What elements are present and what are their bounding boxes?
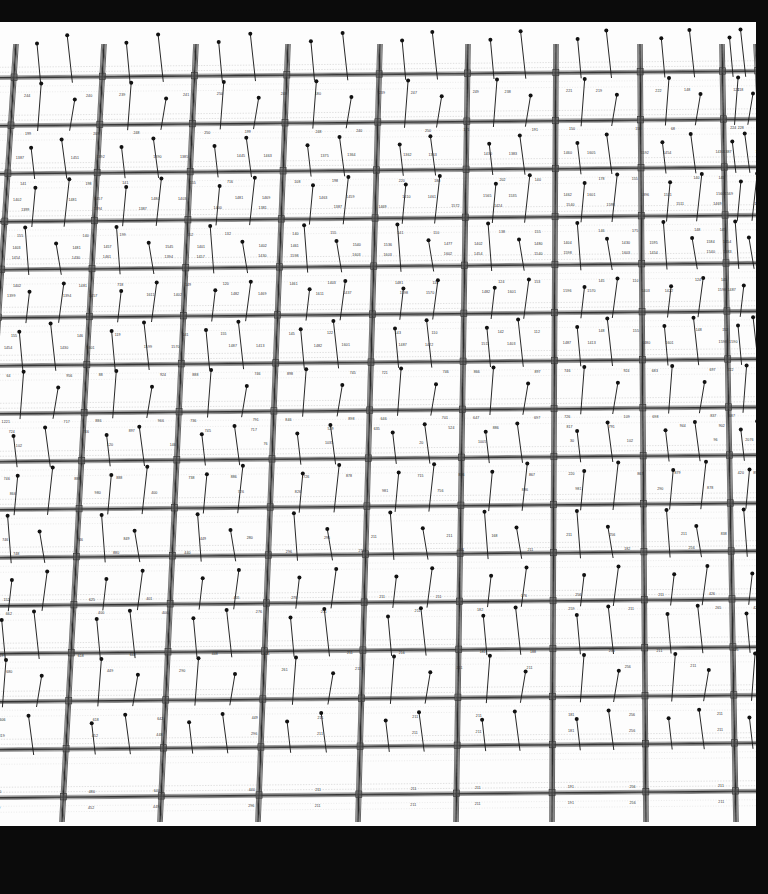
load-marker-head <box>480 718 484 722</box>
reinforcement-value-label: 1570 <box>587 289 595 293</box>
load-marker-head <box>253 176 257 180</box>
reinforcement-value-label: 120 <box>223 282 229 286</box>
column-line <box>456 44 468 822</box>
reinforcement-value-label: 1598 <box>400 291 408 295</box>
column-line <box>457 44 469 822</box>
reinforcement-value-label: 211 <box>412 731 418 735</box>
load-marker-head <box>105 433 109 437</box>
reinforcement-value-label: 718 <box>117 283 123 287</box>
joint-core <box>460 407 464 412</box>
reinforcement-value-label: 211 <box>475 786 481 790</box>
reinforcement-value-label: 211 <box>476 714 482 718</box>
reinforcement-value-label: 1396 <box>641 193 649 197</box>
reinforcement-value-label: 142 <box>498 330 504 334</box>
reinforcement-value-label: 211 <box>315 804 321 808</box>
joint-core <box>639 117 643 122</box>
load-marker-stem <box>486 656 490 703</box>
reinforcement-value-label: 261 <box>281 668 287 672</box>
load-marker-head <box>667 76 671 80</box>
joint-core <box>639 213 643 218</box>
load-marker-head <box>340 383 344 387</box>
reinforcement-value-label: 838 <box>721 532 727 536</box>
reinforcement-value-label: 886 <box>459 473 465 477</box>
reinforcement-value-label: 141 <box>397 231 403 235</box>
reinforcement-value-label: 220 <box>569 472 575 476</box>
load-marker-head <box>141 569 145 573</box>
load-marker-head <box>687 28 691 32</box>
reinforcement-value-label: 898 <box>348 417 354 421</box>
load-marker-stem <box>429 464 434 511</box>
joint-core <box>643 693 647 698</box>
joint-core <box>366 456 370 461</box>
load-marker-stem <box>612 175 617 222</box>
reinforcement-value-label: 452 <box>88 806 94 810</box>
reinforcement-value-label: 724 <box>9 430 15 434</box>
reinforcement-value-label: 198 <box>86 182 92 186</box>
reinforcement-value-label: 697 <box>534 416 540 420</box>
reinforcement-value-label: 182 <box>624 547 630 551</box>
load-marker-head <box>438 174 442 178</box>
joint-core <box>553 214 557 219</box>
reinforcement-value-label: 211 <box>379 595 385 599</box>
reinforcement-value-label: 290 <box>657 487 663 491</box>
load-marker-head <box>233 672 237 676</box>
reinforcement-value-label: 888 <box>192 373 198 377</box>
reinforcement-value-label: 1454 <box>12 256 20 260</box>
joint-core <box>365 504 369 509</box>
reference-dashed-line <box>0 805 756 813</box>
reinforcement-value-label: 248 <box>315 130 321 134</box>
reinforcement-value-label: 1560 <box>716 192 724 196</box>
load-marker-head <box>0 618 4 622</box>
load-marker-head <box>248 32 252 36</box>
load-marker-head <box>423 422 427 426</box>
load-marker-head <box>249 280 253 284</box>
reinforcement-value-label: 1584 <box>707 240 715 244</box>
reinforcement-value-label: 1375 <box>320 154 328 158</box>
reinforcement-value-label: 112 <box>534 330 540 334</box>
load-marker-head <box>743 131 747 135</box>
load-marker-head <box>120 145 124 149</box>
reinforcement-value-label: 150 <box>0 790 1 794</box>
reinforcement-value-label: 826 <box>295 490 301 494</box>
column-line <box>358 44 380 822</box>
reinforcement-value-label: 1487 <box>563 341 571 345</box>
reinforcement-value-label: 1487 <box>229 344 237 348</box>
reinforcement-value-label: 202 <box>500 178 506 182</box>
load-marker-stem <box>292 657 296 704</box>
load-marker-head <box>515 421 519 425</box>
joint-core <box>551 598 555 603</box>
reinforcement-value-label: 1570 <box>426 291 434 295</box>
load-marker-head <box>525 565 529 569</box>
reinforcement-value-label: 449 <box>107 669 113 673</box>
load-marker-head <box>384 719 388 723</box>
reinforcement-value-label: 1404 <box>564 241 572 245</box>
load-marker-stem <box>516 607 521 654</box>
joint-core <box>159 794 163 799</box>
reinforcement-value-label: 956 <box>66 374 72 378</box>
joint-core <box>0 315 1 320</box>
reinforcement-value-label: 256 <box>609 533 615 537</box>
reinforcement-value-label: 1364 <box>347 153 355 157</box>
load-marker-stem <box>405 80 409 127</box>
reinforcement-value-label: 150 <box>569 127 575 131</box>
reinforcement-value-label: 146 <box>170 443 176 447</box>
load-marker-head <box>51 466 55 470</box>
load-marker-head <box>518 133 522 137</box>
reinforcement-value-label: 152 <box>3 598 9 602</box>
load-marker-head <box>736 324 740 328</box>
load-marker-head <box>484 430 488 434</box>
joint-core <box>82 410 86 415</box>
load-marker-stem <box>390 657 394 704</box>
reinforcement-value-label: 239 <box>379 91 385 95</box>
load-marker-head <box>10 578 14 582</box>
load-marker-head <box>343 279 347 283</box>
load-marker-head <box>164 97 168 101</box>
reinforcement-value-label: 791 <box>253 418 259 422</box>
reinforcement-value-label: 211 <box>566 533 572 537</box>
reinforcement-value-label: 248 <box>281 92 287 96</box>
reinforcement-value-label: 198 <box>332 179 338 183</box>
reinforcement-value-label: 886 <box>493 426 499 430</box>
reinforcement-value-label: 280 <box>247 536 253 540</box>
reference-dashed-line <box>0 799 756 807</box>
reinforcement-value-label: 867 <box>529 473 535 477</box>
